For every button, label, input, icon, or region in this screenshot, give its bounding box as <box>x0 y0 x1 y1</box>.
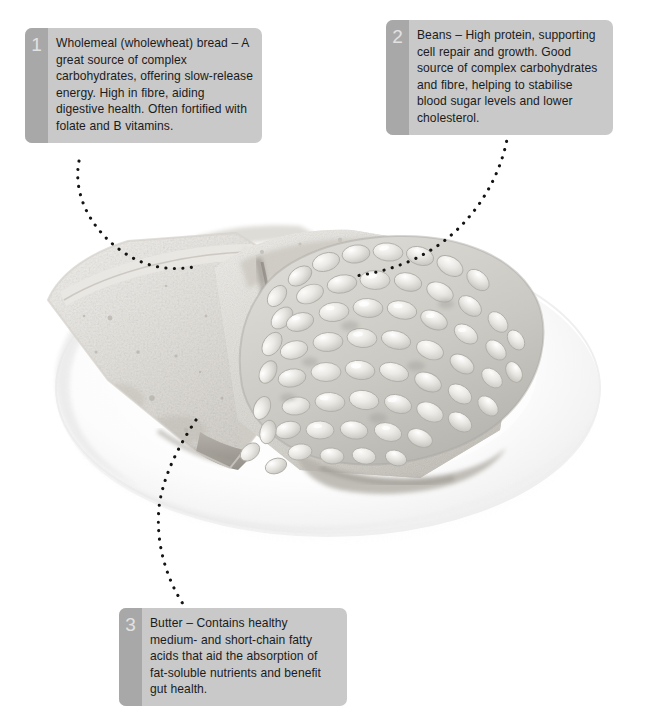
callout-butter[interactable]: 3 Butter – Contains healthy medium- and … <box>119 608 347 706</box>
callout-wholemeal-bread[interactable]: 1 Wholemeal (wholewheat) bread – A great… <box>25 28 262 143</box>
callout-number-3: 3 <box>119 608 142 706</box>
callout-number-2: 2 <box>386 20 409 135</box>
callout-text-2: Beans – High protein, supporting cell re… <box>409 20 613 135</box>
callout-number-1: 1 <box>25 28 48 143</box>
callout-text-1: Wholemeal (wholewheat) bread – A great s… <box>48 28 262 143</box>
callout-text-3: Butter – Contains healthy medium- and sh… <box>142 608 347 706</box>
callout-beans[interactable]: 2 Beans – High protein, supporting cell … <box>386 20 613 135</box>
